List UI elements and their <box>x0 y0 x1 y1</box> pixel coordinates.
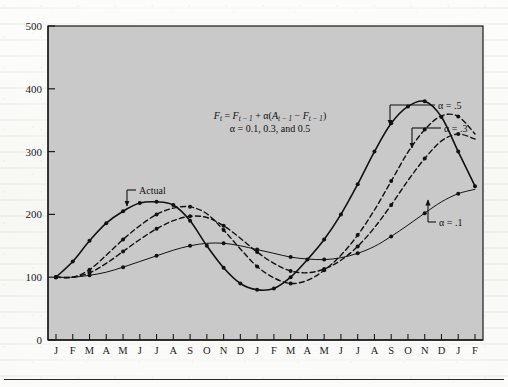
data-point <box>389 234 393 238</box>
formula-minus: − <box>292 110 303 121</box>
alpha-05-label: α = .5 <box>438 100 461 111</box>
x-tick-label: N <box>421 345 429 356</box>
data-point <box>423 99 427 103</box>
y-tick-label: 100 <box>26 271 43 283</box>
data-point <box>423 211 427 215</box>
data-point <box>289 269 293 273</box>
data-point <box>372 150 376 154</box>
data-point <box>305 258 309 262</box>
x-tick-label: A <box>371 345 379 356</box>
data-point <box>473 184 477 188</box>
data-point <box>188 214 192 218</box>
figure-container: 0100200300400500 JFMAMJJASONDJFMAMJJASON… <box>0 0 508 387</box>
data-point <box>289 255 293 259</box>
data-point <box>456 192 460 196</box>
x-tick-label: J <box>54 345 58 356</box>
data-point <box>188 244 192 248</box>
x-tick-label: N <box>220 345 228 356</box>
x-tick-label: O <box>404 345 412 356</box>
data-point <box>322 267 326 271</box>
data-point <box>188 205 192 209</box>
data-point <box>339 212 343 216</box>
data-point <box>222 266 226 270</box>
formula-eq: = <box>222 110 233 121</box>
x-tick-label: O <box>203 345 211 356</box>
x-tick-label: J <box>138 345 142 356</box>
data-point <box>188 219 192 223</box>
data-point <box>155 200 159 204</box>
data-point <box>456 114 460 118</box>
data-point <box>88 273 92 277</box>
data-point <box>255 288 259 292</box>
x-tick-label: J <box>339 345 343 356</box>
x-tick-label: A <box>304 345 312 356</box>
data-point <box>171 203 175 207</box>
actual-label: Actual <box>139 185 166 196</box>
x-tick-label: M <box>319 345 329 356</box>
x-tick-label: F <box>472 345 478 356</box>
x-tick-label: F <box>70 345 76 356</box>
data-point <box>121 265 125 269</box>
data-point <box>289 275 293 279</box>
data-point <box>121 249 125 253</box>
y-tick-label: 400 <box>26 83 43 95</box>
data-point <box>222 241 226 245</box>
data-point <box>222 224 226 228</box>
x-tick-label: M <box>118 345 128 356</box>
data-point <box>71 260 75 264</box>
data-point <box>155 254 159 258</box>
x-tick-label: J <box>255 345 259 356</box>
data-point <box>456 150 460 154</box>
data-point <box>289 281 293 285</box>
data-point <box>356 182 360 186</box>
y-tick-label: 300 <box>26 146 43 158</box>
formula-close-paren: ) <box>323 110 326 122</box>
y-tick-label: 200 <box>26 208 43 220</box>
x-tick-label: J <box>155 345 159 356</box>
data-point <box>138 201 142 205</box>
x-tick-label: D <box>237 345 245 356</box>
formula-plus: + <box>253 110 264 121</box>
data-point <box>121 238 125 242</box>
data-point <box>88 239 92 243</box>
exponential-smoothing-chart: 0100200300400500 JFMAMJJASONDJFMAMJJASON… <box>0 0 508 387</box>
x-tick-label: A <box>170 345 178 356</box>
data-point <box>423 157 427 161</box>
data-point <box>255 265 259 269</box>
formula-sub-tm1c: t − 1 <box>309 115 323 123</box>
x-tick-label: M <box>286 345 296 356</box>
data-point <box>272 287 276 291</box>
data-point <box>356 251 360 255</box>
data-point <box>155 227 159 231</box>
x-tick-label: F <box>271 345 277 356</box>
data-point <box>389 203 393 207</box>
x-tick-label: S <box>187 345 193 356</box>
alpha-03-label: α = .3 <box>444 123 467 134</box>
data-point <box>104 221 108 225</box>
data-point <box>222 228 226 232</box>
x-tick-label: J <box>456 345 460 356</box>
y-tick-label: 500 <box>26 20 43 32</box>
data-point <box>155 212 159 216</box>
data-point <box>356 233 360 237</box>
plot-area-background <box>48 26 483 340</box>
x-tick-label: J <box>356 345 360 356</box>
formula-alpha-values: α = 0.1, 0.3, and 0.5 <box>230 123 310 134</box>
data-point <box>205 244 209 248</box>
data-point <box>356 244 360 248</box>
data-point <box>322 258 326 262</box>
data-point <box>255 248 259 252</box>
data-point <box>389 179 393 183</box>
x-tick-label: A <box>102 345 110 356</box>
data-point <box>238 281 242 285</box>
x-tick-label: M <box>85 345 95 356</box>
footer-rule <box>4 379 504 380</box>
data-point <box>121 209 125 213</box>
y-tick-label: 0 <box>37 334 43 346</box>
x-tick-label: S <box>388 345 394 356</box>
data-point <box>54 275 58 279</box>
alpha-01-label: α = .1 <box>439 217 462 228</box>
x-tick-label: D <box>438 345 446 356</box>
data-point <box>322 238 326 242</box>
